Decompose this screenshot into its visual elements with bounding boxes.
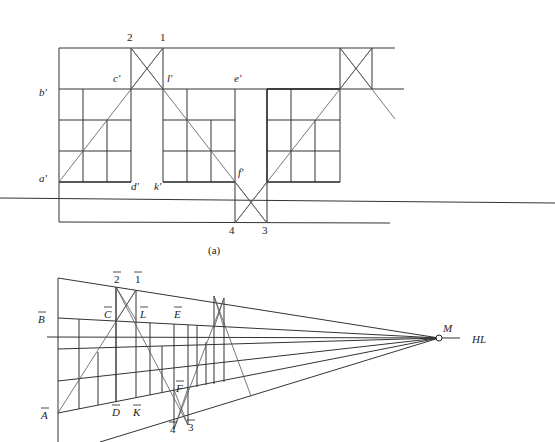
- label-e-prime: e': [234, 72, 242, 84]
- label-4: 4: [229, 224, 235, 236]
- label-F: F: [175, 382, 183, 394]
- label-A: A: [40, 409, 48, 421]
- label-d-prime: d': [131, 180, 140, 192]
- label-B: B: [38, 313, 45, 325]
- label-L: L: [139, 308, 146, 320]
- label-E: E: [173, 308, 181, 320]
- label-1: 1: [135, 273, 141, 285]
- labels-b: B A 2 1 C L E D K F 4 3 M HL: [38, 272, 486, 435]
- block-middle: [163, 89, 235, 223]
- diagonal-a-1: [59, 48, 163, 182]
- label-4: 4: [170, 423, 176, 435]
- figure-b-perspective: B A 2 1 C L E D K F 4 3 M HL: [38, 272, 486, 442]
- figure-a-elevation: 2 1 c' l' e' b' a' d' k' f' 4 3 (a): [0, 31, 555, 257]
- label-2: 2: [114, 273, 120, 285]
- perspective-construction-diagram: 2 1 c' l' e' b' a' d' k' f' 4 3 (a): [0, 0, 555, 442]
- label-f-prime: f': [238, 166, 244, 178]
- label-a-prime: a': [39, 172, 48, 184]
- label-3: 3: [188, 421, 194, 433]
- label-2: 2: [127, 31, 133, 43]
- label-C: C: [104, 308, 112, 320]
- caption-a: (a): [208, 244, 221, 257]
- perspective-verticals: [79, 287, 224, 429]
- label-l-prime: l': [167, 72, 173, 84]
- label-D: D: [111, 406, 120, 418]
- label-k-prime: k': [154, 180, 162, 192]
- label-1: 1: [160, 31, 166, 43]
- horizon-line: [47, 337, 460, 338]
- label-HL: HL: [471, 333, 486, 345]
- label-K: K: [132, 406, 141, 418]
- vanishing-point-m: [436, 335, 442, 341]
- diagonal-2-3: [131, 48, 267, 223]
- block-right: [267, 48, 340, 182]
- label-3: 3: [262, 224, 268, 236]
- label-M: M: [442, 322, 453, 334]
- block-left: [59, 48, 131, 182]
- label-b-prime: b': [39, 86, 48, 98]
- diagonal-4-right: [235, 48, 372, 223]
- diagonal-right-tail: [340, 48, 395, 119]
- label-c-prime: c': [113, 72, 121, 84]
